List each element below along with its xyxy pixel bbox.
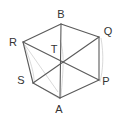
label-Q: Q (104, 25, 113, 37)
edges (23, 24, 99, 98)
edge-Q-S (33, 37, 99, 83)
label-P: P (102, 75, 109, 87)
edge-A-S (33, 83, 60, 98)
label-A: A (55, 103, 63, 115)
label-R: R (9, 36, 17, 48)
label-B: B (57, 8, 64, 20)
edge-R-B (23, 24, 61, 42)
label-S: S (17, 74, 24, 86)
label-T: T (51, 43, 58, 55)
edge-B-Q (61, 24, 99, 37)
hexagon-diagram: B Q P A S R T (0, 0, 122, 122)
edge-P-A (60, 80, 99, 98)
sketch-marks (24, 38, 103, 99)
